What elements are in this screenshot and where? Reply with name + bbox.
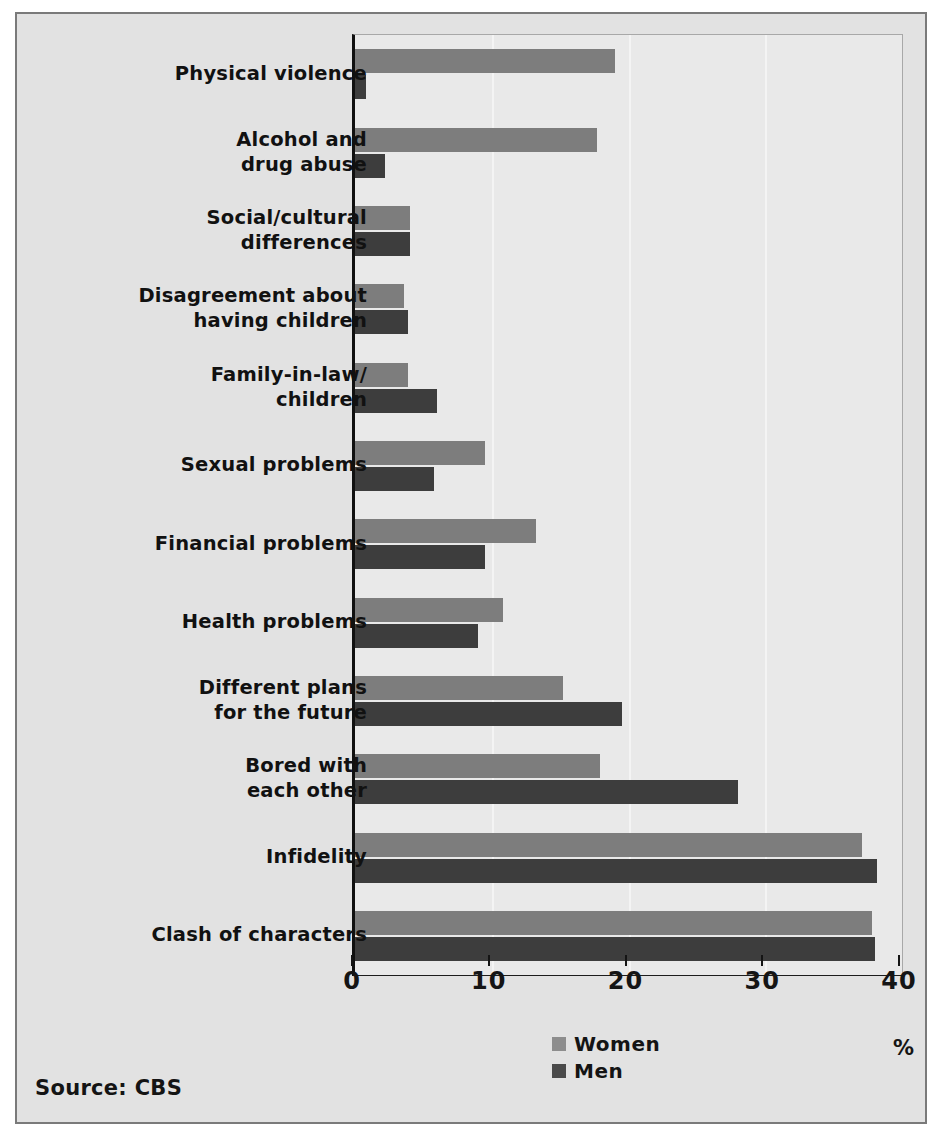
axis-tick-label-30: 30 <box>745 967 780 995</box>
category-label-6: Financial problems <box>47 531 367 556</box>
legend-item-men: Men <box>552 1057 660 1084</box>
bar-women-9 <box>355 754 600 778</box>
category-label-2: Social/cultural differences <box>47 205 367 255</box>
axis-tick-10 <box>488 955 490 966</box>
source-note: Source: CBS <box>35 1076 182 1100</box>
category-label-8: Different plans for the future <box>47 675 367 725</box>
bar-men-10 <box>355 859 877 883</box>
axis-tick-label-10: 10 <box>471 967 506 995</box>
axis-tick-20 <box>625 955 627 966</box>
category-label-9: Bored with each other <box>47 753 367 803</box>
category-label-7: Health problems <box>47 609 367 634</box>
axis-tick-label-40: 40 <box>881 967 916 995</box>
bar-women-1 <box>355 128 597 152</box>
legend-swatch-women <box>552 1037 566 1051</box>
category-label-0: Physical violence <box>47 61 367 86</box>
chart-legend: Women Men <box>552 1030 660 1084</box>
legend-swatch-men <box>552 1064 566 1078</box>
category-label-4: Family-in-law/ children <box>47 362 367 412</box>
chart-figure: Physical violenceAlcohol and drug abuseS… <box>15 12 927 1124</box>
legend-item-women: Women <box>552 1030 660 1057</box>
category-label-3: Disagreement about having children <box>47 283 367 333</box>
category-label-5: Sexual problems <box>47 452 367 477</box>
bar-women-10 <box>355 833 862 857</box>
bar-women-11 <box>355 911 872 935</box>
axis-tick-label-0: 0 <box>343 967 361 995</box>
bar-women-6 <box>355 519 536 543</box>
unit-label: % <box>893 1036 914 1060</box>
bar-men-11 <box>355 937 875 961</box>
bar-women-5 <box>355 441 485 465</box>
category-label-10: Infidelity <box>47 844 367 869</box>
bar-women-8 <box>355 676 563 700</box>
axis-tick-0 <box>351 955 353 966</box>
bar-men-4 <box>355 389 437 413</box>
plot-area <box>352 34 903 976</box>
category-label-11: Clash of characters <box>47 922 367 947</box>
category-label-1: Alcohol and drug abuse <box>47 127 367 177</box>
legend-label-women: Women <box>574 1032 660 1056</box>
axis-tick-label-20: 20 <box>608 967 643 995</box>
axis-tick-30 <box>761 955 763 966</box>
bar-women-0 <box>355 49 615 73</box>
legend-label-men: Men <box>574 1059 623 1083</box>
bar-men-7 <box>355 624 478 648</box>
bar-men-9 <box>355 780 738 804</box>
bar-men-8 <box>355 702 622 726</box>
bar-men-6 <box>355 545 485 569</box>
bar-women-7 <box>355 598 503 622</box>
axis-tick-40 <box>898 955 900 966</box>
